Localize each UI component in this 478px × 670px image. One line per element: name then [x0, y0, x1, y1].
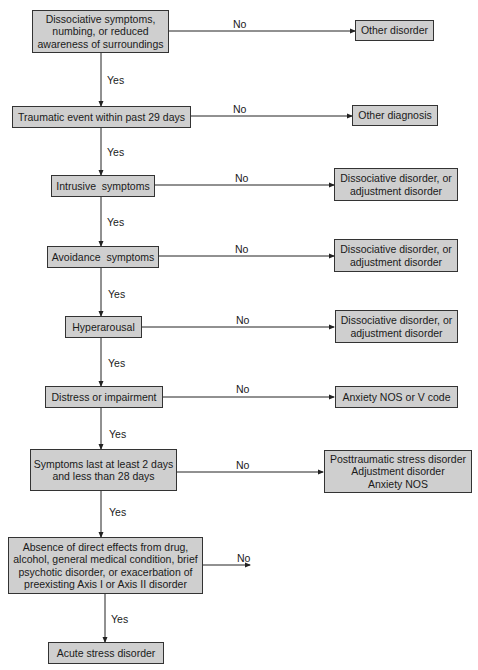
node-distress-impairment: Distress or impairment	[45, 386, 163, 408]
outcome-text: Other disorder	[361, 24, 428, 37]
outcome-text: adjustment disorder	[350, 256, 442, 269]
outcome-other-diagnosis: Other diagnosis	[352, 105, 438, 126]
node-intrusive-symptoms: Intrusive symptoms	[51, 175, 155, 197]
node-text: Absence of direct effects from drug,	[23, 541, 189, 554]
yes-label: Yes	[109, 506, 126, 518]
no-label: No	[236, 314, 249, 326]
node-text: and less than 28 days	[52, 470, 154, 483]
outcome-text: Dissociative disorder, or	[341, 314, 452, 327]
no-label: No	[235, 172, 248, 184]
node-text: Dissociative symptoms,	[46, 13, 156, 26]
no-label: No	[233, 18, 246, 30]
outcome-text: Other diagnosis	[358, 109, 432, 122]
no-label: No	[233, 103, 246, 115]
no-label: No	[237, 552, 250, 564]
node-text: alcohol, general medical condition, brie…	[13, 553, 197, 566]
outcome-text: Adjustment disorder	[351, 465, 444, 478]
node-text: Avoidance symptoms	[52, 251, 155, 264]
yes-label: Yes	[108, 288, 125, 300]
node-avoidance-symptoms: Avoidance symptoms	[47, 246, 159, 268]
outcome-text: adjustment disorder	[350, 185, 442, 198]
outcome-dissociative-or-adjustment-1: Dissociative disorder, or adjustment dis…	[334, 168, 458, 201]
no-label: No	[236, 383, 249, 395]
node-text: Traumatic event within past 29 days	[18, 111, 185, 124]
node-text: preexisting Axis I or Axis II disorder	[24, 578, 187, 591]
yes-label: Yes	[107, 146, 124, 158]
outcome-text: Dissociative disorder, or	[340, 243, 451, 256]
outcome-text: Dissociative disorder, or	[340, 172, 451, 185]
node-text: awareness of surroundings	[37, 38, 163, 51]
node-text: Acute stress disorder	[57, 647, 156, 660]
node-hyperarousal: Hyperarousal	[65, 316, 142, 338]
outcome-text: Anxiety NOS or V code	[343, 391, 451, 404]
node-text: Distress or impairment	[51, 391, 156, 404]
node-dissociative-symptoms: Dissociative symptoms, numbing, or reduc…	[32, 10, 169, 53]
node-absence-direct-effects: Absence of direct effects from drug, alc…	[8, 537, 203, 594]
node-text: Intrusive symptoms	[56, 180, 149, 193]
node-text: psychotic disorder, or exacerbation of	[19, 566, 193, 579]
node-duration: Symptoms last at least 2 days and less t…	[30, 449, 177, 491]
yes-label: Yes	[111, 613, 128, 625]
outcome-text: Posttraumatic stress disorder	[330, 453, 466, 466]
yes-label: Yes	[107, 216, 124, 228]
outcome-text: adjustment disorder	[350, 327, 442, 340]
node-text: numbing, or reduced	[52, 25, 148, 38]
node-text: Hyperarousal	[72, 321, 134, 334]
node-text: Symptoms last at least 2 days	[34, 458, 173, 471]
no-label: No	[236, 459, 249, 471]
outcome-ptsd-adjustment-anxiety: Posttraumatic stress disorder Adjustment…	[324, 450, 472, 493]
yes-label: Yes	[108, 357, 125, 369]
outcome-other-disorder: Other disorder	[355, 20, 434, 41]
yes-label: Yes	[109, 428, 126, 440]
outcome-dissociative-or-adjustment-3: Dissociative disorder, or adjustment dis…	[335, 310, 458, 343]
node-traumatic-event: Traumatic event within past 29 days	[12, 106, 191, 128]
node-acute-stress-disorder: Acute stress disorder	[48, 642, 164, 664]
yes-label: Yes	[107, 74, 124, 86]
no-label: No	[235, 243, 248, 255]
outcome-dissociative-or-adjustment-2: Dissociative disorder, or adjustment dis…	[334, 239, 458, 272]
outcome-anxiety-nos-or-v-code: Anxiety NOS or V code	[335, 386, 458, 408]
outcome-text: Anxiety NOS	[368, 478, 428, 491]
